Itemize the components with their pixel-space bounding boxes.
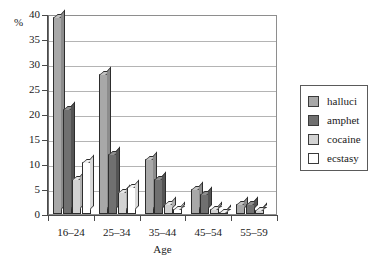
y-tick-mark bbox=[42, 65, 47, 66]
legend-item-halluci[interactable]: halluci bbox=[308, 92, 357, 110]
legend-swatch-ecstasy bbox=[308, 153, 319, 164]
y-tick-label: 40 bbox=[14, 9, 40, 20]
bar-amphet-35-44 bbox=[154, 179, 163, 214]
legend-label: cocaine bbox=[327, 133, 361, 145]
bar-ecstasy-25-34 bbox=[127, 187, 136, 215]
gridline bbox=[49, 116, 276, 117]
x-tick-label: 25–34 bbox=[94, 226, 140, 238]
bar-amphet-45-54 bbox=[200, 194, 209, 214]
gridline bbox=[49, 91, 276, 92]
bar-ecstasy-45-54 bbox=[219, 212, 228, 215]
gridline bbox=[49, 41, 276, 42]
bar-top-face bbox=[173, 206, 185, 210]
bar-cocaine-25-34 bbox=[118, 192, 127, 215]
bar-cocaine-55-59 bbox=[255, 210, 264, 214]
legend-label: halluci bbox=[327, 95, 357, 107]
bar-side-face bbox=[208, 187, 212, 209]
y-tick-mark bbox=[42, 165, 47, 166]
bar-side-face bbox=[135, 179, 139, 209]
y-tick-mark bbox=[42, 215, 47, 216]
x-tick-mark bbox=[185, 216, 186, 221]
legend-item-ecstasy[interactable]: ecstasy bbox=[308, 149, 359, 167]
y-tick-label: 35 bbox=[14, 34, 40, 45]
legend-label: amphet bbox=[327, 114, 359, 126]
x-tick-mark bbox=[140, 216, 141, 221]
x-tick-label: 16–24 bbox=[48, 226, 94, 238]
y-tick-label: 30 bbox=[14, 59, 40, 70]
bar-top-face bbox=[219, 209, 231, 213]
bar-halluci-16-24 bbox=[53, 17, 62, 215]
legend-swatch-amphet bbox=[308, 115, 319, 126]
bar-amphet-25-34 bbox=[108, 154, 117, 214]
legend-item-cocaine[interactable]: cocaine bbox=[308, 130, 361, 148]
bar-cocaine-16-24 bbox=[72, 179, 81, 214]
gridline bbox=[49, 141, 276, 142]
y-tick-label: 15 bbox=[14, 134, 40, 145]
bar-cocaine-45-54 bbox=[210, 209, 219, 214]
bar-halluci-35-44 bbox=[145, 159, 154, 214]
gridline bbox=[49, 66, 276, 67]
y-tick-mark bbox=[42, 115, 47, 116]
y-tick-mark bbox=[42, 90, 47, 91]
bar-chart: % 0510152025303540 16–2425–3435–4445–545… bbox=[0, 0, 379, 267]
bar-cocaine-35-44 bbox=[164, 204, 173, 214]
y-tick-label: 0 bbox=[14, 209, 40, 220]
bar-side-face bbox=[254, 197, 258, 209]
bar-ecstasy-16-24 bbox=[82, 162, 91, 215]
legend-swatch-halluci bbox=[308, 96, 319, 107]
legend-label: ecstasy bbox=[327, 152, 359, 164]
x-tick-mark bbox=[277, 216, 278, 221]
y-tick-mark bbox=[42, 40, 47, 41]
y-tick-mark bbox=[42, 190, 47, 191]
bar-top-face bbox=[255, 207, 267, 211]
y-tick-label: 25 bbox=[14, 84, 40, 95]
y-tick-mark bbox=[42, 15, 47, 16]
bar-amphet-16-24 bbox=[63, 109, 72, 214]
plot-area bbox=[48, 15, 277, 215]
x-tick-label: 35–44 bbox=[140, 226, 186, 238]
x-tick-mark bbox=[94, 216, 95, 221]
y-tick-label: 5 bbox=[14, 184, 40, 195]
bar-ecstasy-35-44 bbox=[173, 209, 182, 214]
x-tick-label: 55–59 bbox=[231, 226, 277, 238]
bar-side-face bbox=[90, 154, 94, 209]
x-axis-line bbox=[47, 215, 278, 216]
bar-amphet-55-59 bbox=[246, 204, 255, 214]
legend-item-amphet[interactable]: amphet bbox=[308, 111, 359, 129]
bar-halluci-55-59 bbox=[236, 204, 245, 214]
y-tick-label: 10 bbox=[14, 159, 40, 170]
bar-halluci-45-54 bbox=[191, 189, 200, 214]
x-tick-label: 45–54 bbox=[185, 226, 231, 238]
bar-halluci-25-34 bbox=[99, 74, 108, 214]
y-tick-label: 20 bbox=[14, 109, 40, 120]
x-tick-mark bbox=[231, 216, 232, 221]
legend: halluciamphetcocaineecstasy bbox=[300, 85, 368, 171]
legend-swatch-cocaine bbox=[308, 134, 319, 145]
x-tick-mark bbox=[48, 216, 49, 221]
y-tick-mark bbox=[42, 140, 47, 141]
x-axis-title: Age bbox=[48, 243, 277, 255]
